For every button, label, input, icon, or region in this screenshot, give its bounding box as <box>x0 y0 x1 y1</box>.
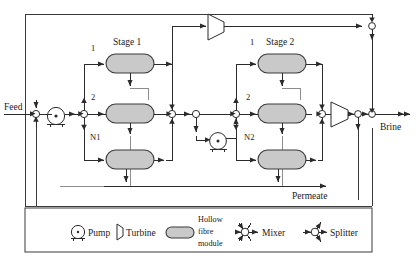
stage2-outlet-collector <box>316 64 325 160</box>
stage1-module-1: Stage 1 1 <box>91 37 172 100</box>
brine-label: Brine <box>380 122 401 132</box>
legend-label-splitter: Splitter <box>330 228 359 238</box>
brine-turbine-icon <box>331 102 348 127</box>
feed-label: Feed <box>4 102 23 112</box>
legend-label-turbine: Turbine <box>126 228 156 238</box>
stage2-inlet-splitter <box>230 64 256 160</box>
brine-turbine <box>326 102 354 127</box>
stage1-inlet-splitter <box>78 64 104 160</box>
splitter-icon <box>303 223 327 242</box>
stage2-module-N2: N2 <box>244 132 316 182</box>
turbine-icon <box>117 224 123 240</box>
legend-item-pump: Pump <box>71 225 110 240</box>
legend-label-module-line3: module <box>198 239 223 248</box>
stage1-module-1-number: 1 <box>91 43 95 53</box>
mixer-icon <box>235 223 258 241</box>
stage2-module-2-number: 2 <box>246 92 250 102</box>
stage1-last-module-label: N1 <box>90 132 100 142</box>
stage2-module-1-number: 1 <box>250 37 254 47</box>
stage2-title: Stage 2 <box>266 37 294 47</box>
feed-inlet: Feed <box>4 102 30 114</box>
permeate-label: Permeate <box>292 191 327 201</box>
legend-label-module-line2: fibre <box>198 227 214 236</box>
brine-splitter-2: Brine <box>369 109 404 133</box>
brine-splitter-1 <box>355 111 368 200</box>
stage1-title: Stage 1 <box>113 37 141 47</box>
hollow-fibre-module-icon <box>166 227 194 238</box>
permeate-header: Permeate <box>60 186 327 201</box>
legend-label-mixer: Mixer <box>262 228 286 238</box>
stage2-module-2: 2 <box>246 92 312 186</box>
stage1-module-2-number: 2 <box>91 92 95 102</box>
stage2-last-module-label: N2 <box>244 132 254 142</box>
legend-item-mixer: Mixer <box>235 223 286 241</box>
top-turbine-icon <box>208 14 224 40</box>
legend: Pump Turbine Hollow fibre module <box>25 208 372 252</box>
legend-item-module: Hollow fibre module <box>166 215 223 248</box>
top-right-splitter <box>369 14 376 118</box>
legend-item-splitter: Splitter <box>303 223 359 242</box>
feed-pump <box>47 107 75 127</box>
top-right-inflow-arrow <box>369 18 375 23</box>
process-flow-diagram-canvas: Feed <box>0 0 418 260</box>
stage2-module-1: Stage 2 1 <box>250 37 322 100</box>
interstage-pump <box>196 118 236 152</box>
legend-label-module-line1: Hollow <box>198 215 223 224</box>
legend-item-turbine: Turbine <box>117 224 156 240</box>
interstage-splitter <box>192 110 232 132</box>
stage1-module-N1: N1 <box>90 132 164 182</box>
outer-recycle-frame <box>25 14 372 206</box>
process-flow-diagram: Feed <box>0 0 418 260</box>
feed-mixer <box>25 100 40 206</box>
stage1-outlet-collector <box>166 64 190 160</box>
legend-label-pump: Pump <box>88 228 110 238</box>
